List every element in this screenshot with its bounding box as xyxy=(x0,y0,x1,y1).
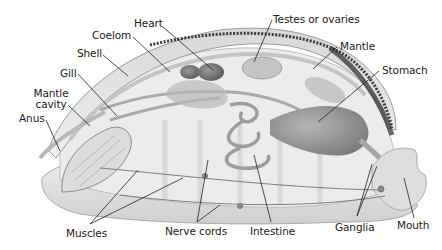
label-mouth: Mouth xyxy=(397,220,429,231)
testes-or-ovaries xyxy=(242,57,282,79)
label-shell: Shell xyxy=(77,48,102,59)
label-ganglia: Ganglia xyxy=(335,222,374,233)
label-stomach: Stomach xyxy=(382,65,428,76)
mollusk-illustration xyxy=(0,0,442,250)
label-heart: Heart xyxy=(134,18,163,29)
label-mantle: Mantle xyxy=(340,41,375,52)
label-gill: Gill xyxy=(60,68,77,79)
label-testes-or-ovaries: Testes or ovaries xyxy=(273,14,360,25)
heart xyxy=(180,63,224,81)
label-muscles: Muscles xyxy=(66,228,107,239)
label-intestine: Intestine xyxy=(250,226,295,237)
label-coelom: Coelom xyxy=(92,30,131,41)
mollusk-diagram: Heart Coelom Shell Gill Mantle cavity An… xyxy=(0,0,442,250)
label-mantle-cavity: Mantle cavity xyxy=(33,88,69,110)
label-nerve-cords: Nerve cords xyxy=(165,226,227,237)
label-mantle-cavity-line2: cavity xyxy=(35,98,66,110)
label-anus: Anus xyxy=(19,113,45,124)
